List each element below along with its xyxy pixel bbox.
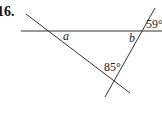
- angle-59-label: 59°: [146, 17, 162, 31]
- angle-a-label: a: [63, 29, 69, 43]
- angle-diagram: a b 59° 85°: [0, 0, 162, 115]
- angle-85-label: 85°: [104, 60, 121, 74]
- angle-b-label: b: [129, 31, 135, 45]
